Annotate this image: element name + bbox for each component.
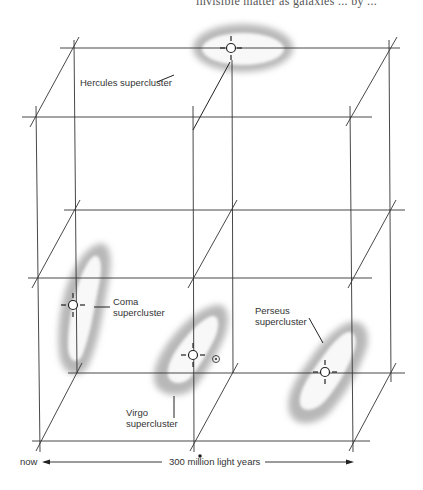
virgo-label-line2: supercluster	[126, 418, 178, 429]
perseus-label: Perseus supercluster	[255, 305, 307, 327]
hercules-label: Hercules supercluster	[80, 77, 172, 88]
coma-label-line1: Coma	[113, 296, 165, 307]
perseus-label-line1: Perseus	[255, 305, 307, 316]
hercules-label-text: Hercules supercluster	[80, 77, 172, 88]
virgo-label-line1: Virgo	[126, 407, 178, 418]
virgo-blob	[154, 305, 228, 395]
virgo-label: Virgo supercluster	[126, 407, 178, 429]
lattice-grid	[22, 37, 405, 452]
coma-label-line2: supercluster	[113, 307, 165, 318]
coma-blob	[58, 244, 110, 375]
perseus-label-line2: supercluster	[255, 316, 307, 327]
sun-icon	[213, 356, 220, 363]
coma-label: Coma supercluster	[113, 296, 165, 318]
scale-left-label: now	[20, 456, 37, 467]
scale-center-label: 300 million light years	[169, 456, 260, 467]
supercluster-lattice-diagram	[0, 0, 423, 490]
